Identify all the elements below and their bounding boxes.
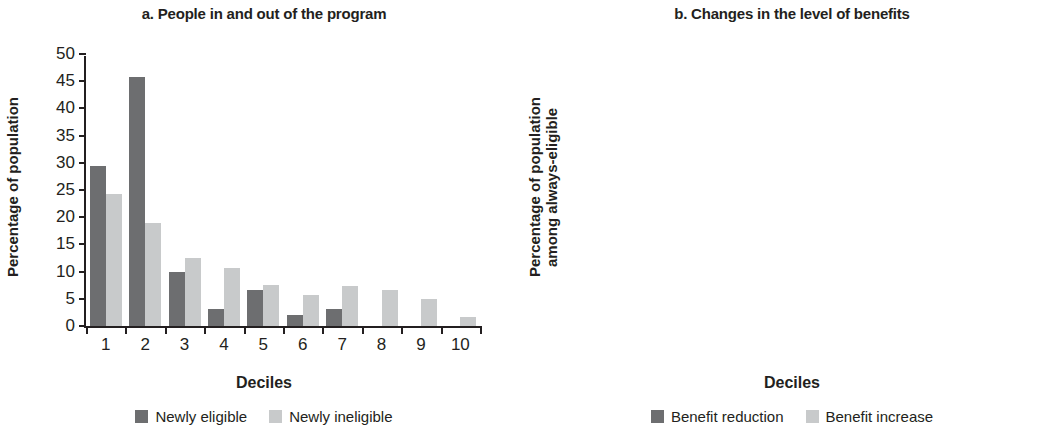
x-tick-label: 4 bbox=[204, 335, 243, 355]
y-tick-mark bbox=[79, 189, 86, 191]
bar bbox=[185, 258, 201, 326]
bar-group-1 bbox=[86, 56, 125, 326]
x-tick-label: 9 bbox=[401, 335, 440, 355]
y-tick-label: 35 bbox=[49, 126, 75, 146]
legend-swatch-icon bbox=[269, 410, 282, 423]
bar bbox=[382, 290, 398, 326]
y-tick-mark bbox=[79, 53, 86, 55]
x-tick-mark bbox=[165, 326, 167, 334]
bar-group-10 bbox=[441, 56, 480, 326]
bar-group-5 bbox=[244, 56, 283, 326]
bar bbox=[247, 290, 263, 326]
y-tick-label: 40 bbox=[49, 98, 75, 118]
legend-swatch-icon bbox=[651, 410, 664, 423]
x-tick-mark bbox=[480, 326, 482, 334]
panel-a: a. People in and out of the program Perc… bbox=[0, 0, 528, 438]
y-tick-mark bbox=[79, 216, 86, 218]
bar bbox=[342, 286, 358, 326]
x-tick-label: 1 bbox=[86, 335, 125, 355]
panel-a-legend: Newly eligible Newly ineligible bbox=[0, 408, 528, 425]
panel-a-x-axis-title: Deciles bbox=[0, 374, 528, 392]
bar bbox=[129, 77, 145, 326]
x-tick-mark bbox=[86, 326, 88, 334]
y-tick-label: 15 bbox=[49, 234, 75, 254]
bar bbox=[224, 268, 240, 326]
x-tick-label: 3 bbox=[165, 335, 204, 355]
panel-a-bars bbox=[86, 56, 480, 326]
bar-group-4 bbox=[204, 56, 243, 326]
y-tick-label: 25 bbox=[49, 180, 75, 200]
x-tick-mark bbox=[362, 326, 364, 334]
y-tick-label: 0 bbox=[49, 316, 75, 336]
bar-group-3 bbox=[165, 56, 204, 326]
x-tick-label: 6 bbox=[283, 335, 322, 355]
x-tick-mark bbox=[401, 326, 403, 334]
legend-label: Benefit reduction bbox=[671, 408, 784, 425]
x-tick-label: 2 bbox=[125, 335, 164, 355]
panel-a-y-axis-label: Percentage of population bbox=[4, 52, 21, 322]
x-tick-label: 5 bbox=[244, 335, 283, 355]
x-tick-mark bbox=[283, 326, 285, 334]
y-tick-mark bbox=[79, 80, 86, 82]
legend-label: Newly eligible bbox=[155, 408, 247, 425]
x-tick-mark bbox=[441, 326, 443, 334]
bar bbox=[460, 317, 476, 326]
y-tick-mark bbox=[79, 135, 86, 137]
bar bbox=[106, 194, 122, 326]
y-tick-label: 10 bbox=[49, 262, 75, 282]
bar bbox=[326, 309, 342, 326]
y-tick-mark bbox=[79, 298, 86, 300]
bar-group-7 bbox=[322, 56, 361, 326]
bar-group-9 bbox=[401, 56, 440, 326]
bar-group-2 bbox=[125, 56, 164, 326]
x-tick-mark bbox=[322, 326, 324, 334]
legend-label: Benefit increase bbox=[826, 408, 934, 425]
x-tick-label: 8 bbox=[362, 335, 401, 355]
bar bbox=[145, 223, 161, 326]
bar bbox=[169, 272, 185, 326]
x-tick-mark bbox=[244, 326, 246, 334]
legend-label: Newly ineligible bbox=[289, 408, 392, 425]
y-tick-mark bbox=[79, 325, 86, 327]
y-tick-label: 45 bbox=[49, 71, 75, 91]
legend-swatch-icon bbox=[135, 410, 148, 423]
y-tick-mark bbox=[79, 162, 86, 164]
y-tick-label: 5 bbox=[49, 289, 75, 309]
panel-b-title: b. Changes in the level of benefits bbox=[528, 5, 1056, 22]
y-tick-label: 20 bbox=[49, 207, 75, 227]
panel-a-title: a. People in and out of the program bbox=[0, 5, 528, 22]
bar bbox=[287, 315, 303, 326]
y-tick-label: 50 bbox=[49, 44, 75, 64]
legend-item-newly-eligible: Newly eligible bbox=[135, 408, 247, 425]
panel-a-plot-area: 05101520253035404550 12345678910 bbox=[84, 56, 480, 328]
y-tick-mark bbox=[79, 243, 86, 245]
bar bbox=[263, 285, 279, 326]
panel-b: b. Changes in the level of benefits 0102… bbox=[528, 0, 1056, 438]
x-tick-mark bbox=[125, 326, 127, 334]
legend-swatch-icon bbox=[806, 410, 819, 423]
panel-b-x-axis-title: Deciles bbox=[528, 374, 1056, 392]
bar bbox=[90, 166, 106, 326]
bar bbox=[208, 309, 224, 326]
y-tick-mark bbox=[79, 271, 86, 273]
y-tick-mark bbox=[79, 107, 86, 109]
panel-b-y-axis-label: Percentage of population among always-el… bbox=[526, 46, 561, 328]
bar-group-8 bbox=[362, 56, 401, 326]
bar bbox=[421, 299, 437, 326]
legend-item-benefit-reduction: Benefit reduction bbox=[651, 408, 784, 425]
panel-b-legend: Benefit reduction Benefit increase bbox=[528, 408, 1056, 425]
x-tick-label: 7 bbox=[322, 335, 361, 355]
bar-group-6 bbox=[283, 56, 322, 326]
bar bbox=[303, 295, 319, 326]
y-tick-label: 30 bbox=[49, 153, 75, 173]
x-tick-mark bbox=[204, 326, 206, 334]
legend-item-benefit-increase: Benefit increase bbox=[806, 408, 934, 425]
panel-a-x-labels: 12345678910 bbox=[86, 335, 480, 355]
legend-item-newly-ineligible: Newly ineligible bbox=[269, 408, 392, 425]
x-tick-label: 10 bbox=[441, 335, 480, 355]
